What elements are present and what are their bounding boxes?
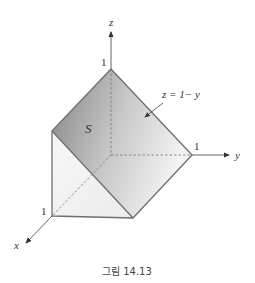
figure-canvas: z y x 1 1 1 S z = 1− y 그림 14.13 bbox=[0, 0, 255, 283]
x-axis-label: x bbox=[13, 239, 19, 251]
z-tick-one: 1 bbox=[101, 56, 107, 68]
z-axis-label: z bbox=[108, 16, 114, 28]
y-tick-one: 1 bbox=[194, 140, 200, 152]
plane-equation-label: z = 1− y bbox=[161, 88, 200, 100]
figure-caption: 그림 14.13 bbox=[102, 266, 152, 277]
x-tick-one: 1 bbox=[41, 205, 47, 217]
surface-label: S bbox=[85, 121, 92, 136]
x-axis bbox=[26, 216, 52, 243]
y-axis-label: y bbox=[234, 149, 240, 161]
